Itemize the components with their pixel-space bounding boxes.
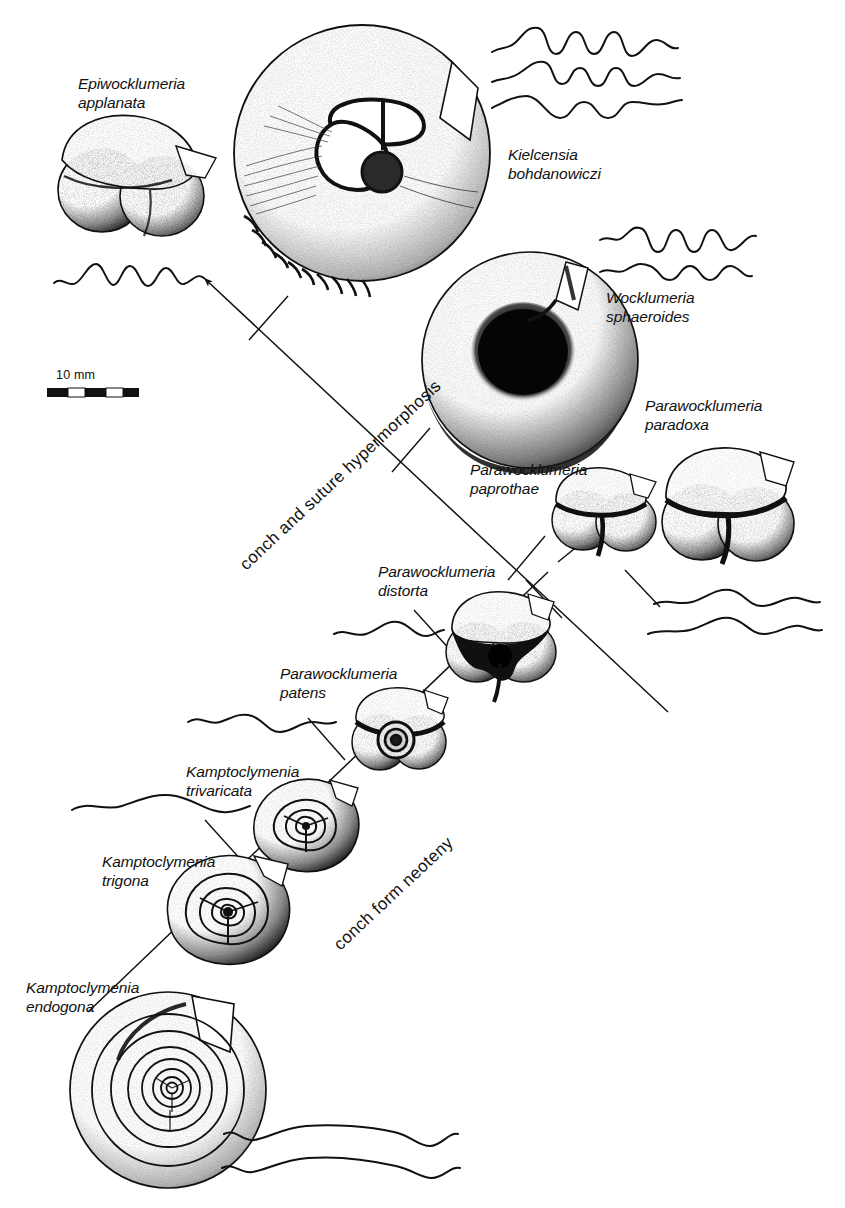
evolution-diagram: Epiwocklumeria applanata Kielcensia bohd… — [0, 0, 845, 1208]
suture-distorta — [334, 622, 444, 636]
axis-label-neoteny: conch form neoteny — [330, 833, 458, 955]
shell-wocklumeria-sphaeroides — [422, 252, 638, 474]
axis-label-hypermorphosis: conch and suture hypermorphosis — [236, 376, 445, 574]
axis-hypermorphosis-line — [204, 278, 668, 712]
shell-kielcensia-bohdanowiczi — [234, 25, 490, 297]
scale-bar-label: 10 mm — [56, 368, 95, 382]
specimen-label-parawocklumeria-paradoxa: Parawocklumeria paradoxa — [645, 396, 762, 434]
suture-paradoxa — [648, 590, 822, 634]
shell-parawocklumeria-distorta — [446, 592, 556, 702]
specimen-label-parawocklumeria-patens: Parawocklumeria patens — [280, 664, 397, 702]
specimen-label-wocklumeria-sphaeroides: Wocklumeria sphaeroides — [606, 288, 694, 326]
scale-bar-graphic — [47, 388, 139, 397]
shell-kamptoclymenia-endogona — [70, 992, 266, 1188]
specimen-label-parawocklumeria-distorta: Parawocklumeria distorta — [378, 562, 495, 600]
suture-wocklumeria — [600, 228, 756, 280]
suture-epiwocklumeria — [54, 264, 204, 286]
shell-epiwocklumeria-applanata — [58, 115, 216, 236]
shell-parawocklumeria-paradoxa — [662, 448, 794, 564]
suture-kielcensia — [492, 28, 682, 118]
specimen-label-kielcensia-bohdanowiczi: Kielcensia bohdanowiczi — [508, 145, 601, 183]
suture-endogona — [222, 1125, 460, 1178]
specimen-label-kamptoclymenia-trigona: Kamptoclymenia trigona — [102, 852, 215, 890]
illustration-layer — [0, 0, 845, 1208]
axis-neoteny-line — [88, 524, 660, 1012]
specimen-label-kamptoclymenia-endogona: Kamptoclymenia endogona — [26, 978, 139, 1016]
specimen-label-epiwocklumeria-applanata: Epiwocklumeria applanata — [78, 74, 185, 112]
specimen-label-parawocklumeria-paprothae: Parawocklumeria paprothae — [470, 460, 587, 498]
suture-patens — [188, 715, 336, 732]
specimen-label-kamptoclymenia-trivaricata: Kamptoclymenia trivaricata — [186, 762, 299, 800]
